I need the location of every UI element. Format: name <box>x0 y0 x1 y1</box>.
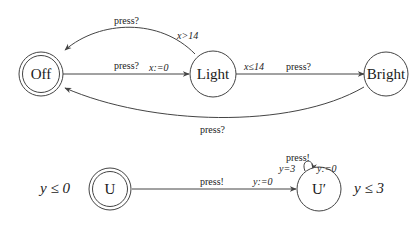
state-off-label: Off <box>31 66 52 82</box>
state-off: Off <box>19 52 63 96</box>
edge-light-to-off <box>65 27 195 54</box>
label-u-to-uprime-update: y:=0 <box>252 176 273 187</box>
label-light-to-bright-sync: press? <box>286 61 312 72</box>
label-light-to-off-sync: press? <box>114 15 140 26</box>
state-light: Light <box>190 51 236 97</box>
label-light-to-off-guard: x>14 <box>176 30 198 41</box>
label-light-to-bright-guard: x≤14 <box>243 61 264 72</box>
label-self-loop-update: y:=0 <box>316 163 337 174</box>
state-u: U <box>89 168 131 210</box>
state-bright: Bright <box>364 52 408 96</box>
label-self-loop-sync: press! <box>286 152 310 163</box>
invariant-uprime: y ≤ 3 <box>352 180 384 196</box>
label-self-loop-guard: y=3 <box>278 163 295 174</box>
label-off-to-light-sync: press? <box>114 60 140 71</box>
label-bright-to-off-sync: press? <box>200 124 226 135</box>
label-u-to-uprime-sync: press! <box>200 176 224 187</box>
state-bright-label: Bright <box>367 66 406 82</box>
timed-automata-diagram: Off Light Bright press? x:=0 press? x>14… <box>0 0 419 230</box>
state-uprime-label: U′ <box>312 181 326 197</box>
invariant-u: y ≤ 0 <box>38 180 70 196</box>
state-u-label: U <box>105 181 116 197</box>
label-off-to-light-update: x:=0 <box>148 62 169 73</box>
state-light-label: Light <box>197 66 230 82</box>
